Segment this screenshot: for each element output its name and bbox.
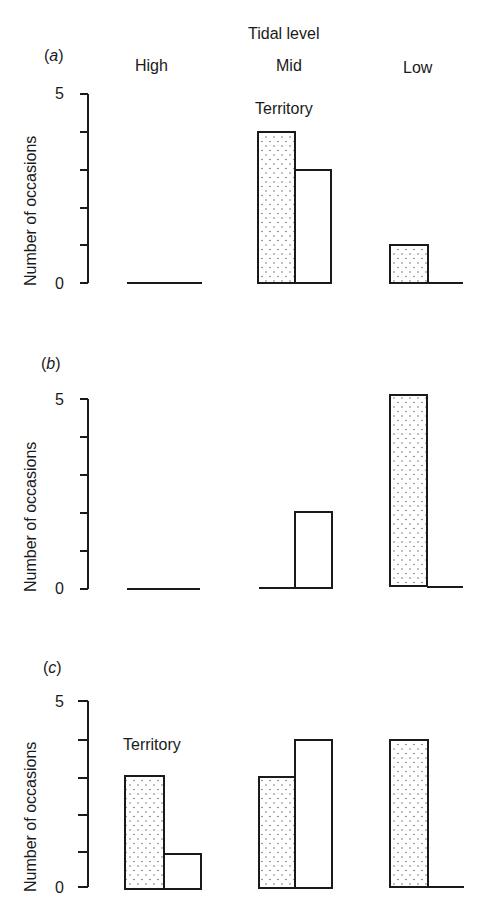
- bar-low-stippled-a: [390, 245, 428, 283]
- y-axis-a: [80, 94, 88, 283]
- y-axis-b: [80, 399, 88, 589]
- bar-mid-stippled-c: [259, 777, 295, 888]
- bar-low-stippled-c: [390, 740, 428, 887]
- bar-mid-open-c: [295, 740, 332, 888]
- bar-low-stippled-b: [390, 395, 427, 586]
- y-axis-c: [78, 701, 88, 887]
- bar-high-open-c: [164, 854, 201, 889]
- bar-mid-open-a: [295, 170, 331, 283]
- bar-mid-open-b: [295, 512, 332, 588]
- bar-high-stippled-c: [125, 776, 164, 889]
- bar-charts: [0, 0, 496, 911]
- bar-mid-stippled-a: [258, 132, 295, 283]
